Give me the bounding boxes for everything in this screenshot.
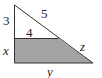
label-lower-hypotenuse: z (79, 39, 85, 54)
label-top-hypotenuse: 5 (41, 6, 48, 21)
geometry-diagram: 3 4 5 x z y (0, 0, 102, 78)
label-base: y (45, 64, 53, 78)
label-top-vertical-leg: 3 (3, 13, 10, 28)
label-lower-vertical-leg: x (2, 43, 9, 58)
label-top-horizontal-segment: 4 (26, 25, 33, 40)
